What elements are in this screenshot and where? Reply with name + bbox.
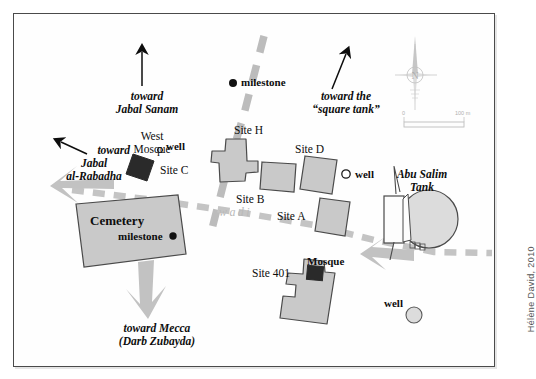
label-toward-jabal-al-rabadha: toward Jabal al-Rabadha <box>58 144 130 183</box>
scale-bar <box>404 117 464 127</box>
building-west-mosque <box>126 154 154 181</box>
arrow-to-square-tank <box>332 54 346 89</box>
label-well-site-c: well <box>166 140 185 152</box>
label-site-c: Site C <box>160 164 188 177</box>
label-toward-jabal-sanam: toward Jabal Sanam <box>103 90 191 116</box>
scale-bar-start: 0 <box>402 110 405 116</box>
label-toward-mecca: toward Mecca (Darb Zubayda) <box>92 322 222 348</box>
label-site-b: Site B <box>236 193 264 206</box>
label-mosque-401: Mosque <box>307 255 344 267</box>
label-site-d: Site D <box>295 143 324 156</box>
building-site-a <box>315 198 350 236</box>
scale-bar-end: 100 m <box>455 110 470 116</box>
label-site-h: Site H <box>234 124 263 137</box>
compass-rose: N <box>395 36 437 110</box>
building-mosque-401 <box>306 265 323 280</box>
building-site-h <box>211 139 258 182</box>
label-cemetery: Cemetery <box>90 214 144 229</box>
well-south <box>406 307 422 323</box>
label-site-401: Site 401 <box>252 267 290 280</box>
map-frame: N toward Jabal Sanam toward the “square … <box>13 13 495 367</box>
svg-text:N: N <box>411 70 418 81</box>
label-milestone-cemetery: milestone <box>118 230 163 242</box>
label-milestone-north: milestone <box>241 76 286 88</box>
label-site-a: Site A <box>277 210 305 223</box>
building-site-d <box>300 156 337 194</box>
label-well-south: well <box>384 297 403 309</box>
milestone-dot-north <box>229 79 237 87</box>
milestone-dot-cemetery <box>169 232 176 239</box>
label-toward-square-tank: toward the “square tank” <box>296 90 396 116</box>
label-wadi: wadi <box>219 206 252 219</box>
building-site-b <box>260 162 296 192</box>
gray-arrow-south <box>126 260 166 319</box>
figure-credit: Hélène David, 2010 <box>526 246 536 332</box>
well-site-d <box>342 170 350 178</box>
label-abu-salim-tank: Abu Salim Tank <box>372 168 472 194</box>
